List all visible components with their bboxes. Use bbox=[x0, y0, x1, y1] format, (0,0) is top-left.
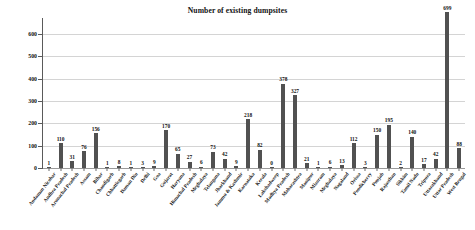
bar-value-label: 150 bbox=[373, 127, 381, 133]
plot-area: 1110317615618139170652767342921882037832… bbox=[43, 23, 465, 168]
bar-slot[interactable]: 21 bbox=[301, 23, 313, 168]
y-axis-tick-mark bbox=[38, 123, 43, 124]
bar-value-label: 82 bbox=[257, 142, 262, 148]
bar-value-label: 1 bbox=[106, 160, 109, 166]
bar[interactable] bbox=[176, 154, 180, 169]
bar-slot[interactable]: 82 bbox=[254, 23, 266, 168]
y-axis-tick-label: 100 bbox=[3, 143, 37, 149]
bar-value-label: 170 bbox=[162, 123, 170, 129]
bar-slot[interactable]: 327 bbox=[289, 23, 301, 168]
bar-slot[interactable]: 378 bbox=[277, 23, 289, 168]
bar-value-label: 218 bbox=[244, 112, 252, 118]
x-axis-tick-label: Delhi bbox=[138, 171, 150, 184]
bar-slot[interactable]: 170 bbox=[160, 23, 172, 168]
bar-value-label: 8 bbox=[118, 159, 121, 165]
x-axis-tick-label: Assam bbox=[78, 171, 92, 186]
y-axis-tick-label: 200 bbox=[3, 120, 37, 126]
bar-value-label: 1 bbox=[317, 160, 320, 166]
bar-slot[interactable]: 65 bbox=[172, 23, 184, 168]
y-axis-tick-label: 300 bbox=[3, 98, 37, 104]
y-axis-tick-mark bbox=[38, 146, 43, 147]
bar-slot[interactable]: 3 bbox=[137, 23, 149, 168]
bar-slot[interactable]: 42 bbox=[219, 23, 231, 168]
bar-slot[interactable]: 73 bbox=[207, 23, 219, 168]
y-axis-tick-label: 400 bbox=[3, 76, 37, 82]
y-axis-tick-mark bbox=[38, 79, 43, 80]
bar-slot[interactable]: 9 bbox=[231, 23, 243, 168]
bar-slot[interactable]: 110 bbox=[55, 23, 67, 168]
bar-slot[interactable]: 1 bbox=[102, 23, 114, 168]
y-axis-tick-label: 500 bbox=[3, 53, 37, 59]
chart-title: Number of existing dumpsites bbox=[0, 6, 475, 16]
bar-slot[interactable]: 218 bbox=[242, 23, 254, 168]
bar-slot[interactable]: 0 bbox=[266, 23, 278, 168]
bar-slot[interactable]: 27 bbox=[184, 23, 196, 168]
bar-value-label: 65 bbox=[175, 146, 180, 152]
bar[interactable] bbox=[375, 135, 379, 168]
bar-slot[interactable]: 112 bbox=[348, 23, 360, 168]
bar-slot[interactable]: 1 bbox=[313, 23, 325, 168]
bar[interactable] bbox=[410, 137, 414, 168]
bar-slot[interactable]: 9 bbox=[149, 23, 161, 168]
bar-slot[interactable]: 6 bbox=[195, 23, 207, 168]
bar[interactable] bbox=[434, 159, 438, 168]
bar[interactable] bbox=[82, 151, 86, 168]
bar[interactable] bbox=[352, 143, 356, 168]
bar-value-label: 156 bbox=[92, 126, 100, 132]
bar[interactable] bbox=[94, 133, 98, 168]
bar[interactable] bbox=[293, 95, 297, 168]
bar[interactable] bbox=[164, 130, 168, 168]
bar-value-label: 21 bbox=[304, 156, 309, 162]
bar[interactable] bbox=[457, 148, 461, 168]
bar-value-label: 31 bbox=[70, 154, 75, 160]
bar-value-label: 6 bbox=[329, 159, 332, 165]
bar-slot[interactable]: 195 bbox=[383, 23, 395, 168]
bar-slot[interactable]: 1 bbox=[43, 23, 55, 168]
bar[interactable] bbox=[246, 119, 250, 168]
bar-value-label: 3 bbox=[364, 160, 367, 166]
bar-value-label: 0 bbox=[270, 160, 273, 166]
bar-value-label: 3 bbox=[141, 160, 144, 166]
bar-slot[interactable]: 42 bbox=[430, 23, 442, 168]
bar-value-label: 17 bbox=[421, 157, 426, 163]
bar[interactable] bbox=[258, 150, 262, 168]
bar[interactable] bbox=[70, 161, 74, 168]
y-axis-tick-label: 0 bbox=[3, 165, 37, 171]
bar-slot[interactable]: 6 bbox=[324, 23, 336, 168]
y-axis-tick-mark bbox=[38, 101, 43, 102]
x-axis-label-group: Andaman NicobarAndhra PradeshArunachal P… bbox=[43, 171, 465, 230]
bar-slot[interactable]: 1 bbox=[125, 23, 137, 168]
bar-slot[interactable]: 156 bbox=[90, 23, 102, 168]
bar-slot[interactable]: 17 bbox=[418, 23, 430, 168]
bar-value-label: 73 bbox=[210, 144, 215, 150]
x-axis-tick-label-text: Delhi bbox=[138, 171, 150, 184]
bar-slot[interactable]: 150 bbox=[371, 23, 383, 168]
bar-value-label: 6 bbox=[200, 159, 203, 165]
bar-slot[interactable]: 2 bbox=[395, 23, 407, 168]
bar[interactable] bbox=[223, 159, 227, 168]
y-axis-tick-label: 600 bbox=[3, 31, 37, 37]
bar-value-label: 27 bbox=[187, 154, 192, 160]
bar-slot[interactable]: 76 bbox=[78, 23, 90, 168]
bar-value-label: 9 bbox=[235, 159, 238, 165]
bar-value-label: 2 bbox=[399, 160, 402, 166]
x-axis-tick-label-text: Assam bbox=[78, 171, 92, 186]
bar-value-label: 195 bbox=[385, 117, 393, 123]
bar-value-label: 88 bbox=[456, 141, 461, 147]
bar-slot[interactable]: 88 bbox=[453, 23, 465, 168]
bar-slot[interactable]: 31 bbox=[66, 23, 78, 168]
bar[interactable] bbox=[387, 125, 391, 169]
bar[interactable] bbox=[281, 84, 285, 168]
bar-slot[interactable]: 699 bbox=[442, 23, 454, 168]
bar[interactable] bbox=[59, 143, 63, 168]
bar[interactable] bbox=[211, 152, 215, 168]
bar-slot[interactable]: 3 bbox=[360, 23, 372, 168]
chart-container: Number of existing dumpsites 01002003004… bbox=[0, 0, 475, 230]
bar-value-label: 13 bbox=[339, 158, 344, 164]
y-axis-tick-mark bbox=[38, 168, 43, 169]
bar-slot[interactable]: 8 bbox=[113, 23, 125, 168]
bar[interactable] bbox=[445, 12, 449, 168]
bar-value-label: 76 bbox=[81, 144, 86, 150]
bar-slot[interactable]: 140 bbox=[406, 23, 418, 168]
bar-slot[interactable]: 13 bbox=[336, 23, 348, 168]
